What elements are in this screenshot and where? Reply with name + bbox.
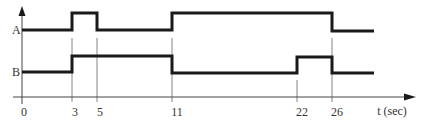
- signal-label-a: A: [12, 23, 21, 37]
- x-axis-tick-labels: 0 3 5 11 22 26: [21, 105, 343, 119]
- tick-label: 3: [72, 105, 78, 119]
- y-axis: [19, 6, 26, 104]
- tick-label: 22: [296, 105, 308, 119]
- y-axis-arrow-icon: [19, 6, 26, 16]
- timing-diagram: A B 0 3 5 11 22 26 t (sec): [0, 0, 434, 126]
- x-axis-title: t (sec): [377, 104, 407, 118]
- signal-a-waveform: [22, 13, 374, 31]
- tick-label: 5: [97, 105, 103, 119]
- x-axis-arrow-icon: [404, 94, 416, 101]
- tick-label: 11: [171, 105, 183, 119]
- tick-label: 0: [21, 105, 27, 119]
- x-axis: [13, 94, 416, 101]
- signal-label-b: B: [12, 65, 20, 79]
- signal-b-waveform: [22, 56, 374, 73]
- tick-label: 26: [331, 105, 343, 119]
- time-guide-lines: [72, 38, 332, 102]
